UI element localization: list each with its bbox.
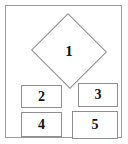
shape-label-5: 5 xyxy=(92,118,99,132)
shape-label-1: 1 xyxy=(30,14,108,88)
diagram-outer-frame: 1 2 3 4 5 xyxy=(5,5,122,138)
shape-label-3: 3 xyxy=(95,88,102,102)
shape-rectangle-2[interactable]: 2 xyxy=(21,85,62,108)
shape-rectangle-3[interactable]: 3 xyxy=(78,83,118,107)
shape-diamond-1[interactable]: 1 xyxy=(30,14,108,88)
shape-label-2: 2 xyxy=(38,90,45,104)
shape-label-4: 4 xyxy=(38,118,45,132)
shape-rectangle-5[interactable]: 5 xyxy=(72,111,118,139)
diagram-canvas: 1 2 3 4 5 xyxy=(0,0,128,144)
shape-rectangle-4[interactable]: 4 xyxy=(21,112,62,137)
